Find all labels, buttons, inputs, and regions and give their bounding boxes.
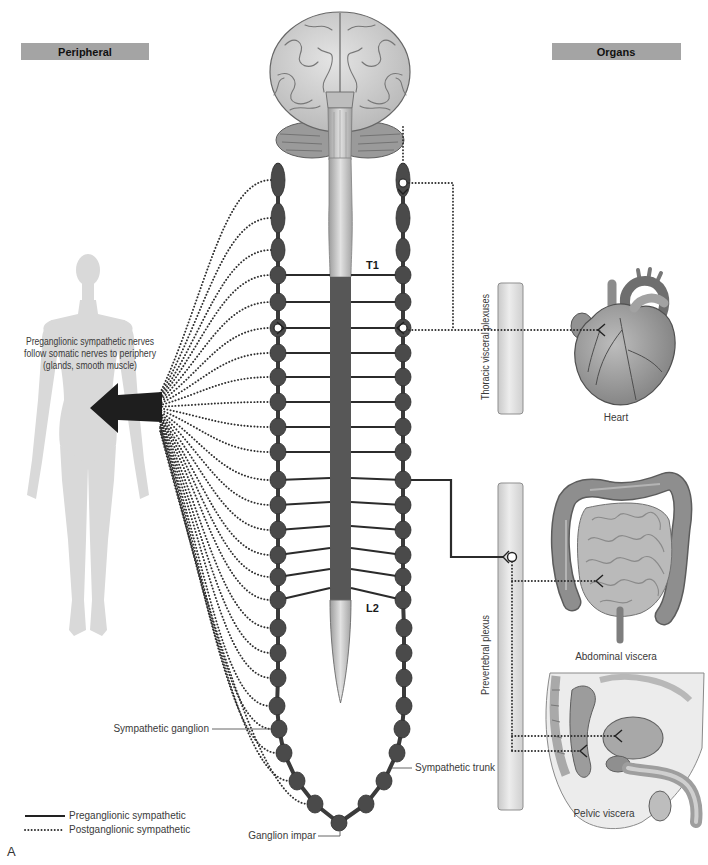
postganglionic-fiber: [160, 250, 271, 398]
header-organs: Organs: [552, 43, 681, 60]
sympathetic-ganglion-right: [395, 568, 411, 586]
sympathetic-nervous-system-diagram: Peripheral Organs Preganglionic sympathe…: [0, 0, 708, 865]
bladder: [603, 717, 663, 759]
sympathetic-ganglion-left: [270, 669, 286, 687]
thoracic-plexus-bar: [498, 283, 523, 414]
sympathetic-ganglion-left: [270, 521, 286, 539]
postganglionic-fiber: [160, 417, 271, 577]
sympathetic-ganglion-right: [395, 293, 411, 311]
thoracic-plexus-label: Thoracic visceral plexuses: [480, 294, 491, 400]
spinal-cord-cervical: [329, 158, 353, 277]
sympathetic-ganglion-right: [395, 591, 411, 609]
heart-illustration: [571, 269, 675, 405]
diagram-canvas: Peripheral Organs Preganglionic sympathe…: [0, 0, 708, 865]
sympathetic-ganglion-right: [396, 619, 412, 637]
prevertebral-plexus: Prevertebral plexus: [480, 483, 523, 810]
sympathetic-ganglion-right: [396, 238, 410, 262]
sympathetic-ganglion-left: [270, 393, 286, 411]
sympathetic-ganglion-left: [270, 471, 286, 489]
sympathetic-ganglion-right: [395, 368, 411, 386]
human-figure: [27, 254, 149, 636]
sympathetic-ganglion-left: [269, 697, 285, 715]
sympathetic-ganglion-right: [395, 521, 411, 539]
periphery-note-line-1: Preganglionic sympathetic nerves: [26, 336, 154, 347]
sympathetic-ganglion-right: [395, 496, 411, 514]
figure-torso: [43, 300, 132, 470]
sympathetic-ganglion-right: [395, 471, 411, 489]
sympathetic-ganglion-right: [395, 393, 411, 411]
sympathetic-ganglion-left: [270, 644, 286, 662]
sympathetic-ganglion-left: [270, 266, 286, 284]
organ-label-heart: Heart: [604, 412, 629, 423]
legend-postganglionic-label: Postganglionic sympathetic: [69, 824, 190, 835]
level-label-t1: T1: [366, 259, 379, 271]
sympathetic-ganglion-left: [271, 163, 285, 197]
legend-preganglionic-label: Preganglionic sympathetic: [69, 810, 186, 821]
spinal-cord-thoracolumbar-segment: [330, 277, 351, 600]
postganglionic-fiber: [160, 402, 271, 407]
brain-illustration: [270, 12, 410, 160]
sympathetic-ganglion-left: [270, 443, 286, 461]
sympathetic-ganglion-right: [376, 772, 392, 790]
sympathetic-ganglion-right: [396, 644, 412, 662]
sympathetic-ganglion-left: [270, 368, 286, 386]
header-peripheral-label: Peripheral: [58, 46, 112, 58]
prevertebral-plexus-bar: [498, 483, 523, 810]
sympathetic-ganglion-left: [270, 344, 286, 362]
organ-label-pelvic: Pelvic viscera: [573, 808, 635, 819]
sympathetic-ganglion-left: [270, 496, 286, 514]
abdominal-viscera-illustration: [560, 481, 683, 640]
postganglionic-fiber: [160, 425, 270, 706]
sympathetic-ganglion-right: [395, 443, 411, 461]
callout-sympathetic-trunk: Sympathetic trunk: [392, 762, 496, 773]
sympathetic-ganglion-left: [270, 591, 286, 609]
sympathetic-ganglion-left: [307, 795, 323, 813]
prevertebral-ganglion-cell-icon: [508, 553, 517, 562]
sympathetic-ganglion-right: [394, 720, 410, 738]
sympathetic-ganglion-right: [395, 344, 411, 362]
sympathetic-ganglion-right: [395, 266, 411, 284]
header-peripheral: Peripheral: [21, 43, 149, 60]
spinal-cord: [329, 158, 353, 703]
header-organs-label: Organs: [597, 46, 636, 58]
postganglionic-fiber: [160, 275, 271, 399]
sympathetic-ganglion-right: [358, 795, 374, 813]
sympathetic-ganglion-left: [270, 619, 286, 637]
callout-ganglion-impar-label: Ganglion impar: [248, 830, 316, 841]
callout-ganglion-impar: Ganglion impar: [248, 830, 340, 841]
sympathetic-ganglion-left: [271, 238, 285, 262]
ganglion-impar: [331, 815, 347, 831]
legend: Preganglionic sympathetic Postganglionic…: [25, 810, 190, 835]
thoracic-visceral-plexus: Thoracic visceral plexuses: [480, 283, 523, 414]
sympathetic-ganglion-left: [289, 772, 305, 790]
pelvic-viscera-illustration: [546, 673, 704, 829]
periphery-note: Preganglionic sympathetic nerves follow …: [24, 336, 156, 371]
figure-left-leg: [88, 445, 116, 636]
organ-label-abdominal: Abdominal viscera: [575, 651, 657, 662]
cervical-ganglion-cell-icon: [399, 179, 407, 187]
postganglionic-fiber: [160, 377, 271, 405]
heart-ventricles: [575, 304, 675, 405]
pons: [326, 92, 354, 108]
sympathetic-ganglion-left: [276, 744, 292, 762]
cervical-cardiac-fiber: [409, 183, 453, 330]
prevertebral-plexus-label: Prevertebral plexus: [480, 615, 491, 695]
periphery-note-line-3: (glands, smooth muscle): [43, 360, 137, 371]
spinal-cord-conus: [330, 600, 351, 703]
sympathetic-ganglion-left: [270, 568, 286, 586]
sympathetic-ganglion-right: [395, 418, 411, 436]
periphery-note-line-2: follow somatic nerves to periphery: [24, 348, 156, 359]
postganglionic-fiber: [160, 428, 277, 753]
figure-head: [76, 254, 100, 286]
panel-label: A: [7, 844, 16, 859]
sympathetic-ganglion-left: [270, 293, 286, 311]
testis: [649, 791, 671, 821]
sympathetic-ganglion-right: [395, 546, 411, 564]
level-label-l2: L2: [366, 602, 379, 614]
callout-sympathetic-trunk-label: Sympathetic trunk: [415, 762, 496, 773]
figure-right-leg: [60, 445, 88, 636]
sympathetic-ganglion-left: [270, 418, 286, 436]
sympathetic-ganglion-left: [270, 546, 286, 564]
sympathetic-ganglion-right: [396, 203, 410, 233]
callout-sympathetic-ganglion-label: Sympathetic ganglion: [113, 723, 209, 734]
